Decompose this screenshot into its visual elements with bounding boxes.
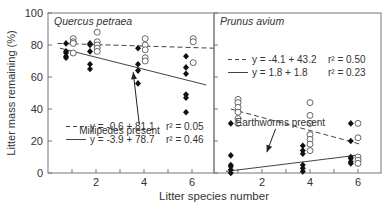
data-point-filled (183, 64, 189, 71)
data-point-open (142, 47, 148, 53)
x-tick-label: 4 (307, 176, 313, 188)
y-tick-label: 0 (37, 167, 43, 179)
data-point-filled (228, 152, 234, 159)
x-tick-label: 6 (189, 176, 195, 188)
data-point-filled (87, 66, 93, 73)
legend-equation: y = 1.8 + 1.8 (252, 67, 308, 78)
data-point-filled (228, 120, 234, 127)
data-point-open (142, 58, 148, 64)
y-tick-label: 20 (31, 135, 43, 147)
data-point-filled (63, 40, 69, 47)
data-point-open (190, 60, 196, 66)
data-point-open (190, 39, 196, 45)
panel-2: 246Prunus aviumEarthworms presenty = -4.… (214, 13, 381, 188)
data-point-open (307, 141, 313, 147)
legend-r2: r² = 0.23 (328, 67, 366, 78)
annotation-label: Earthworms present (236, 117, 326, 128)
data-point-open (94, 48, 100, 54)
panel-title: Quercus petraea (54, 15, 132, 27)
data-point-open (70, 40, 76, 46)
legend-r2: r² = 0.50 (328, 54, 366, 65)
data-point-filled (135, 80, 141, 87)
x-tick-label: 6 (355, 176, 361, 188)
data-point-filled (183, 71, 189, 78)
data-point-open (235, 109, 241, 115)
legend-equation: y = -0.6 + 81.1 (90, 121, 155, 132)
y-tick-label: 40 (31, 103, 43, 115)
data-point-filled (135, 61, 141, 68)
arrowhead-icon (266, 145, 272, 153)
x-tick-label: 2 (259, 176, 265, 188)
legend-r2: r² = 0.46 (166, 134, 204, 145)
y-axis-label: Litter mass remaining (%) (5, 30, 17, 155)
arrowhead-icon (131, 72, 137, 79)
data-point-filled (183, 53, 189, 60)
x-tick-label: 2 (93, 176, 99, 188)
y-tick-label: 60 (31, 71, 43, 83)
y-tick-label: 100 (25, 7, 43, 19)
data-point-open (307, 148, 313, 154)
data-point-open (142, 36, 148, 42)
chart-canvas: 020406080100246Quercus petraeaMillipedes… (0, 0, 390, 215)
data-point-open (355, 160, 361, 166)
regression-line-dashed (58, 43, 214, 48)
panel-frame (214, 13, 381, 173)
legend-equation: y = -3.9 + 78.7 (90, 134, 155, 145)
data-point-open (355, 120, 361, 126)
annotation-arrow (133, 72, 139, 124)
data-point-open (307, 100, 313, 106)
x-axis-label: Litter species number (159, 190, 269, 202)
x-tick-label: 4 (141, 176, 147, 188)
y-tick-label: 80 (31, 39, 43, 51)
legend-equation: y = -4.1 + 43.2 (252, 54, 317, 65)
figure: 020406080100246Quercus petraeaMillipedes… (0, 0, 390, 215)
data-point-filled (183, 109, 189, 116)
data-point-open (355, 135, 361, 141)
data-point-open (70, 50, 76, 56)
data-point-filled (348, 138, 354, 145)
panel-title: Prunus avium (220, 15, 284, 27)
data-point-filled (87, 48, 93, 55)
legend-r2: r² = 0.05 (166, 121, 204, 132)
data-point-open (94, 29, 100, 35)
data-point-filled (348, 120, 354, 127)
panel-1: 020406080100246Quercus petraeaMillipedes… (25, 7, 214, 188)
regression-line-solid (226, 155, 356, 171)
